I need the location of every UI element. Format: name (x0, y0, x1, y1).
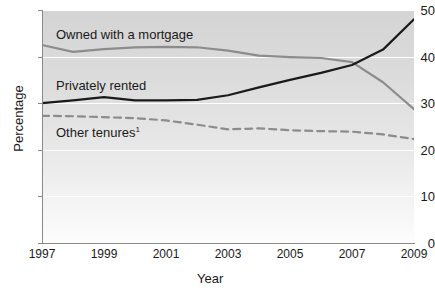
y-axis-tick-label: 40 (401, 51, 435, 64)
y-axis-tick-label: 20 (401, 144, 435, 157)
x-axis-line (42, 243, 415, 244)
y-axis-tick (38, 10, 42, 11)
series-label: Other tenures1 (56, 123, 140, 140)
x-axis-title: Year (197, 272, 223, 285)
x-axis-tick-label: 2005 (270, 248, 310, 260)
y-axis-title: Percentage (12, 71, 25, 167)
y-axis-tick-label: 30 (401, 97, 435, 110)
footnote-marker: 1 (136, 125, 140, 134)
y-axis-tick (38, 103, 42, 104)
series-label: Privately rented (56, 79, 146, 93)
x-axis-tick-label: 1999 (84, 248, 124, 260)
y-axis-line (42, 10, 43, 244)
series-label: Owned with a mortgage (56, 28, 193, 42)
x-axis-tick-label: 2009 (394, 248, 434, 260)
y-axis-tick-label: 10 (401, 190, 435, 203)
x-axis-tick-label: 1997 (22, 248, 62, 260)
x-axis-tick-label: 2007 (332, 248, 372, 260)
y-axis-tick-label: 50 (401, 4, 435, 17)
y-axis-tick (38, 243, 42, 244)
y-axis-tick (38, 57, 42, 58)
x-axis-tick-label: 2003 (208, 248, 248, 260)
y-axis-tick (38, 150, 42, 151)
line-chart: 01020304050 1997199920012003200520072009… (0, 0, 435, 291)
y-axis-tick (38, 196, 42, 197)
x-axis-tick-label: 2001 (146, 248, 186, 260)
